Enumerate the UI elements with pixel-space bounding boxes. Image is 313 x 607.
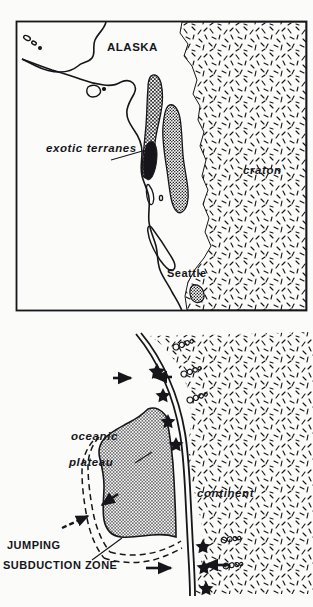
diagram-label-oceanic: oceanic — [71, 431, 118, 443]
diagram-label-plateau: plateau — [69, 457, 113, 469]
map-label-exotic-terranes: exotic terranes — [46, 143, 137, 155]
diagram-label-subduction-zone: SUBDUCTION ZONE — [3, 560, 117, 571]
diagram-label-continent: continent — [197, 488, 254, 500]
coastline-path — [22, 22, 182, 311]
kodiak-island — [87, 85, 106, 97]
map-label-craton: craton — [243, 165, 282, 177]
diagram-label-jumping: JUMPING — [7, 540, 61, 551]
exotic-terrane-black — [144, 142, 157, 180]
jump-direction-arrow — [62, 516, 88, 528]
figure-canvas — [0, 0, 313, 607]
map-label-seattle: Seattle — [167, 268, 207, 279]
jumping-subduction-leader — [92, 538, 122, 560]
map-label-alaska: ALASKA — [107, 42, 158, 54]
exotic-terrane-gray — [163, 105, 189, 213]
figure-root: ALASKA craton exotic terranes Seattle oc… — [0, 0, 313, 607]
aleutian-islands — [23, 35, 41, 50]
